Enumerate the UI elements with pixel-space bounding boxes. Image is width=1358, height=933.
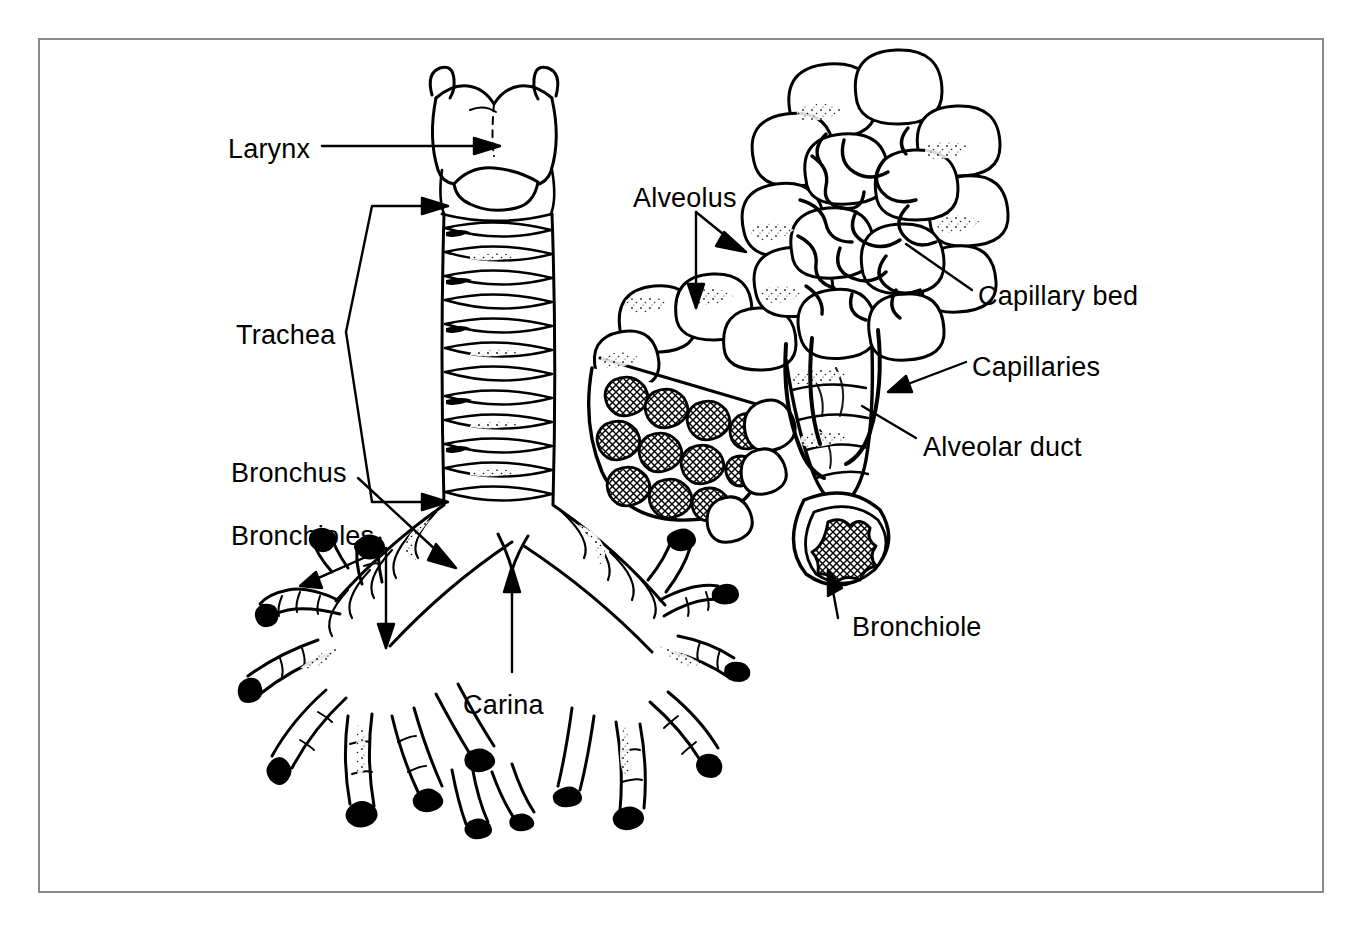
label-capillary-bed: Capillary bed [978,283,1138,310]
label-bronchioles: Bronchioles [231,523,374,550]
label-alveolar-duct: Alveolar duct [923,434,1082,461]
alveolar-duct-bronchiole [785,330,888,585]
label-carina: Carina [463,692,544,719]
leader-carina [504,566,520,672]
leader-capillaries [888,362,966,392]
diagram-page: Larynx Trachea Bronchus Bronchioles Cari… [0,0,1358,933]
leader-trachea [346,198,448,510]
right-bronchial-tree [553,528,751,830]
trachea-structure [442,214,555,504]
label-larynx: Larynx [228,136,310,163]
label-bronchiole-right: Bronchiole [852,614,982,641]
leader-larynx [322,138,500,154]
label-capillaries: Capillaries [972,354,1100,381]
label-trachea: Trachea [236,322,335,349]
label-alveolus: Alveolus [633,185,737,212]
respiratory-anatomy-illustration [0,0,1358,933]
capillary-bed-sac [742,50,1008,360]
alveolar-sac-cutaway [589,274,796,542]
label-bronchus: Bronchus [231,460,347,487]
